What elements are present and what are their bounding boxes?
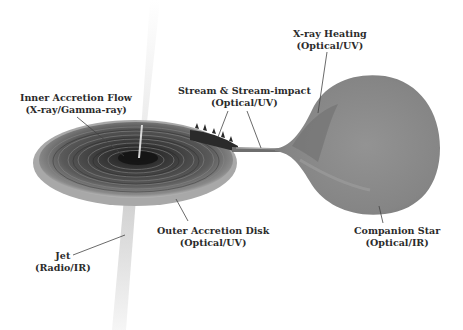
accretion-disk [33,120,238,206]
label-inner-flow-name: Inner Accretion Flow [20,92,132,104]
leader-outer-disk [176,199,188,221]
jet-lower [112,198,136,330]
label-jet: Jet (Radio/IR) [35,250,91,274]
label-companion-star: Companion Star (Optical/IR) [354,225,440,249]
binary-system-illustration [0,0,463,330]
label-companion-name: Companion Star [354,225,440,237]
label-xray-heating-band: (Optical/UV) [293,40,367,52]
label-jet-band: (Radio/IR) [35,262,91,274]
leader-stream-right [247,111,261,148]
label-xray-heating: X-ray Heating (Optical/UV) [293,28,367,52]
label-xray-heating-name: X-ray Heating [293,28,367,40]
label-stream-impact: Stream & Stream-impact (Optical/UV) [178,85,311,109]
label-stream-name: Stream & Stream-impact [178,85,311,97]
label-inner-accretion-flow: Inner Accretion Flow (X-ray/Gamma-ray) [20,92,132,116]
label-jet-name: Jet [35,250,91,262]
label-stream-band: (Optical/UV) [178,97,311,109]
label-outer-disk-band: (Optical/UV) [157,237,269,249]
label-inner-flow-band: (X-ray/Gamma-ray) [20,104,132,116]
label-outer-accretion-disk: Outer Accretion Disk (Optical/UV) [157,225,269,249]
label-outer-disk-name: Outer Accretion Disk [157,225,269,237]
label-companion-band: (Optical/IR) [354,237,440,249]
